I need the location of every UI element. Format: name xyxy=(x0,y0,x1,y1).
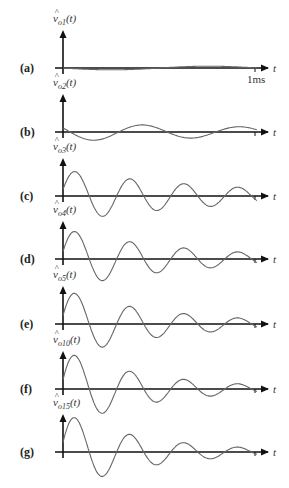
waveform-f xyxy=(63,355,257,413)
y-arrow-icon xyxy=(60,158,67,166)
waveform-c xyxy=(63,172,257,217)
x-axis-label: t xyxy=(273,318,277,330)
x-axis-label: t xyxy=(273,446,277,458)
x-arrow-icon xyxy=(261,256,269,263)
y-arrow-icon xyxy=(60,221,67,229)
x-axis-label: t xyxy=(273,190,277,202)
panel-label: (b) xyxy=(20,125,35,139)
signal-label: ^vo4(t) xyxy=(53,198,77,218)
signal-label: ^vo10(t) xyxy=(53,328,81,348)
waveform-figure: (a)^vo1(t)t1ms(b)^vo2(t)t(c)^vo3(t)t(d)^… xyxy=(0,0,289,488)
waveform-e xyxy=(63,293,257,347)
y-arrow-icon xyxy=(60,286,67,294)
panel-g: (g)^vo15(t)t xyxy=(20,391,277,476)
y-arrow-icon xyxy=(60,94,67,102)
x-axis-label: t xyxy=(273,253,277,265)
waveform-g xyxy=(63,418,257,477)
x-arrow-icon xyxy=(261,449,269,456)
x-axis-label: t xyxy=(273,383,277,395)
panel-label: (a) xyxy=(20,61,34,75)
y-arrow-icon xyxy=(60,414,67,422)
panel-c: (c)^vo3(t)t xyxy=(20,135,277,216)
signal-label: ^vo2(t) xyxy=(53,71,77,91)
y-arrow-icon xyxy=(60,30,67,38)
panel-label: (f) xyxy=(20,382,32,396)
signal-label: ^vo3(t) xyxy=(53,135,77,155)
panel-e: (e)^vo5(t)t xyxy=(20,263,277,347)
panel-label: (d) xyxy=(20,252,35,266)
signal-label: ^vo5(t) xyxy=(53,263,77,283)
x-axis-label: t xyxy=(273,62,277,74)
waveform-d xyxy=(63,232,257,281)
panel-label: (c) xyxy=(20,189,33,203)
x-arrow-icon xyxy=(261,193,269,200)
x-arrow-icon xyxy=(261,65,269,72)
x-axis-label: t xyxy=(273,126,277,138)
signal-label: ^vo15(t) xyxy=(53,391,81,411)
x-arrow-icon xyxy=(261,129,269,136)
panel-label: (g) xyxy=(20,445,34,459)
x-arrow-icon xyxy=(261,386,269,393)
panel-f: (f)^vo10(t)t xyxy=(20,328,277,413)
signal-label: ^vo1(t) xyxy=(53,7,77,27)
panel-b: (b)^vo2(t)t xyxy=(20,71,277,140)
panel-d: (d)^vo4(t)t xyxy=(20,198,277,281)
x-arrow-icon xyxy=(261,321,269,328)
panel-a: (a)^vo1(t)t1ms xyxy=(20,7,277,85)
panel-label: (e) xyxy=(20,317,33,331)
y-arrow-icon xyxy=(60,351,67,359)
time-marker-label: 1ms xyxy=(247,73,265,85)
